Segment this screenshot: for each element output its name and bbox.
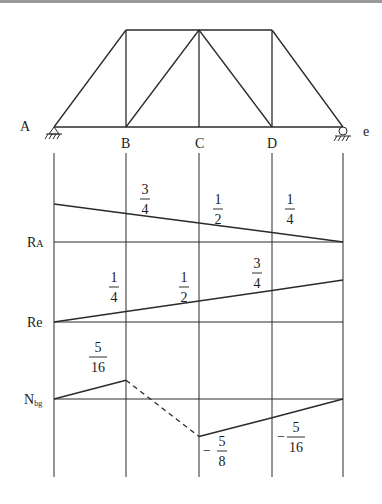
- fraction-label-b: 516: [89, 340, 107, 375]
- member-diagonal-bc: [126, 30, 199, 127]
- node-label-e: e: [363, 124, 369, 139]
- numerator: 1: [287, 192, 294, 207]
- dashed-segment-1: [126, 380, 199, 436]
- segment-3: [272, 399, 343, 418]
- denominator: 4: [142, 202, 149, 217]
- member-left-end-diagonal: [54, 30, 126, 127]
- numerator: 1: [215, 192, 222, 207]
- node-label-b: B: [121, 136, 130, 151]
- fraction-label-d: 34: [252, 256, 262, 291]
- minus-sign: −: [203, 443, 211, 458]
- segment-1: [126, 214, 199, 224]
- fraction-label-d: −516: [277, 420, 305, 455]
- denominator: 4: [111, 290, 118, 305]
- minus-sign: −: [277, 429, 285, 444]
- denominator: 4: [254, 276, 261, 291]
- fraction-label-c: 12: [213, 192, 223, 227]
- numerator: 3: [254, 256, 261, 271]
- label-ra: RA: [27, 235, 44, 250]
- segment-3: [272, 280, 343, 291]
- denominator: 2: [181, 290, 188, 305]
- member-diagonal-cd: [199, 30, 272, 127]
- truss-influence-diagram: A B C D e 341214141234516−58−516 RA Re N…: [0, 0, 382, 504]
- denominator: 16: [289, 440, 303, 455]
- fraction-label-d: 14: [285, 192, 295, 227]
- fraction-label-c: 12: [179, 270, 189, 305]
- denominator: 2: [215, 212, 222, 227]
- numerator: 1: [111, 270, 118, 285]
- denominator: 16: [91, 360, 105, 375]
- segment-0: [54, 312, 126, 323]
- fraction-label-b: 14: [109, 270, 119, 305]
- label-re: Re: [27, 315, 43, 330]
- member-right-end-diagonal: [272, 30, 343, 127]
- roller-support-icon: [334, 127, 351, 141]
- numerator: 5: [293, 420, 300, 435]
- projection-lines: [54, 153, 343, 477]
- segment-2: [199, 418, 272, 437]
- segment-1: [126, 301, 199, 312]
- denominator: 8: [219, 454, 226, 469]
- truss: A B C D e: [20, 30, 369, 151]
- fraction-label-b: 34: [140, 182, 150, 217]
- numerator: 1: [181, 270, 188, 285]
- denominator: 4: [287, 212, 294, 227]
- node-label-c: C: [195, 136, 204, 151]
- segment-2: [199, 223, 272, 233]
- segment-0: [54, 380, 126, 399]
- fraction-label-c: −58: [203, 434, 227, 469]
- node-label-d: D: [267, 136, 277, 151]
- segment-0: [54, 204, 126, 214]
- numerator: 3: [142, 182, 149, 197]
- numerator: 5: [219, 434, 226, 449]
- label-nbg: Nbg: [24, 392, 42, 408]
- node-label-a: A: [20, 119, 31, 134]
- segment-3: [272, 233, 343, 243]
- segment-2: [199, 291, 272, 302]
- numerator: 5: [95, 340, 102, 355]
- pin-support-icon: [45, 127, 62, 139]
